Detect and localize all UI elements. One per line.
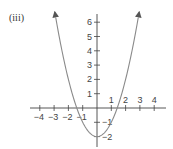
axes [30, 14, 166, 147]
x-tick-label: −2 [62, 112, 72, 122]
y-tick-label: 4 [87, 46, 92, 56]
y-tick-label: 2 [87, 74, 92, 84]
y-tick-label: 6 [87, 17, 92, 27]
parabola-chart: −4−3−2−11234−2−1123456 [0, 0, 173, 149]
x-tick-label: −3 [48, 112, 58, 122]
x-tick-label: 3 [137, 95, 142, 105]
x-tick-label: 1 [109, 95, 114, 105]
x-tick-label: 2 [123, 95, 128, 105]
y-tick-label: 3 [87, 60, 92, 70]
axis-ticks: −4−3−2−11234−2−1123456 [34, 17, 157, 141]
x-tick-label: 4 [152, 95, 157, 105]
y-tick-label: 5 [87, 32, 92, 42]
x-tick-label: −4 [34, 112, 44, 122]
y-tick-label: 1 [87, 89, 92, 99]
